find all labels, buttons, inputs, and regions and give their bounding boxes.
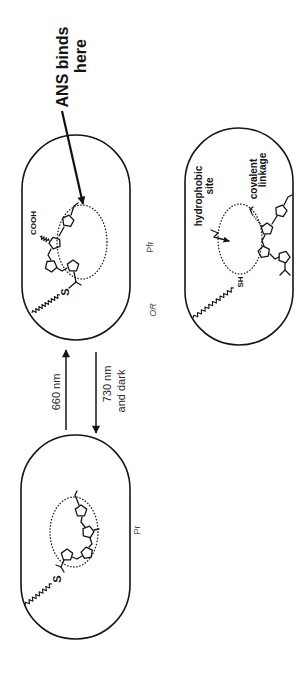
bridge-p3-p4 xyxy=(72,556,82,559)
or-label: OR xyxy=(148,303,158,317)
thioether-branch xyxy=(56,565,64,572)
phytochrome-diagram: ANS binds here COOH S Pfr OR xyxy=(0,0,297,685)
ans-pointer-arrow xyxy=(62,111,83,204)
isopropyl-branch xyxy=(280,270,290,275)
pyrrole-ring-c xyxy=(46,261,57,272)
state-label-pfr: Pfr xyxy=(145,241,155,253)
pyrrole-ring-2 xyxy=(261,223,272,234)
photoconversion-arrows: 660 nm 730 nm and dark xyxy=(50,350,127,433)
thioether-linker xyxy=(69,282,76,288)
carboxyl-bond xyxy=(40,236,49,242)
pyrrole-ring-b xyxy=(49,237,60,248)
ans-label-line1: ANS binds xyxy=(54,26,71,107)
thiol-label: SH xyxy=(236,276,245,287)
bridge-1-2 xyxy=(272,216,277,224)
covalent-linkage-hook xyxy=(250,207,253,214)
hydrophobic-pocket xyxy=(218,204,262,274)
bridge-a-b xyxy=(59,227,64,236)
covalent-label-line2: linkage xyxy=(257,152,268,187)
bridge-3-4 xyxy=(270,254,279,259)
label-660nm: 660 nm xyxy=(50,374,62,411)
state-label-pr: Pr xyxy=(132,525,142,534)
bridge-p2-p3 xyxy=(89,538,92,547)
pfr-capsule: COOH S xyxy=(22,135,130,340)
pyrrole-ring-d xyxy=(67,260,78,271)
binding-pocket-pfr xyxy=(57,205,107,279)
protein-chain-pr xyxy=(25,584,52,605)
ans-label-line2: here xyxy=(72,39,89,73)
bridge-2-3 xyxy=(262,235,265,246)
pyrrole-ring-4 xyxy=(279,251,290,262)
covalent-linkage-bond xyxy=(252,214,262,226)
cooh-label: COOH xyxy=(29,211,38,235)
ring-p1-substituent xyxy=(75,491,79,505)
ring-1-substituent xyxy=(284,195,292,205)
pyrrole-ring-p3 xyxy=(81,547,92,558)
hydrophobic-label-line1: hydrophobic xyxy=(193,165,204,226)
sulfur-label-pfr: S xyxy=(59,288,71,295)
protein-chain-pfr xyxy=(32,295,60,314)
bridge-b-c xyxy=(48,249,51,260)
bridge-p1-p2 xyxy=(81,517,85,527)
ans-annotation: ANS binds here xyxy=(54,26,89,204)
ring-p2-substituent xyxy=(94,529,99,530)
sulfur-label-pr: S xyxy=(51,575,63,582)
protein-chain-alternative xyxy=(193,288,234,318)
protein-outline-pr xyxy=(21,435,130,639)
pyrrole-ring-1 xyxy=(276,205,287,216)
protein-outline-pfr xyxy=(22,135,130,340)
pyrrole-ring-p1 xyxy=(75,505,86,516)
hydrophobic-site-pointer xyxy=(211,230,229,241)
ring-p4-thioether-bond xyxy=(61,560,64,567)
pyrrole-ring-p4 xyxy=(61,549,72,560)
alternative-capsule: hydrophobic site covalent linkage SH xyxy=(185,128,293,345)
ring-a-substituent xyxy=(71,203,78,215)
hydrophobic-label-line2: site xyxy=(204,177,215,195)
label-and-dark: and dark xyxy=(115,369,127,412)
label-730nm: 730 nm xyxy=(101,366,113,403)
pyrrole-ring-3 xyxy=(258,246,269,257)
pyrrole-ring-a xyxy=(63,215,74,226)
pr-capsule: S xyxy=(21,435,130,639)
pyrrole-ring-p2 xyxy=(83,526,94,537)
